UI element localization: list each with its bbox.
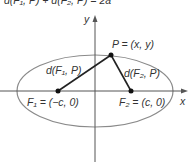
focus1-label: F₁ = (−c, 0) [27,96,79,108]
y-axis-label: y [83,13,90,25]
focus1-point [56,89,61,94]
focus2-label: F₂ = (c, 0) [119,96,165,108]
point-p-label: P = (x, y) [112,38,154,50]
ellipse-diagram: d(F₁, P) + d(F₂, P) = 2a x y P = (x, y) … [0,0,191,162]
x-axis-arrow-icon [181,89,188,94]
x-axis-label: x [179,95,186,107]
distance2-label: d(F₂, P) [124,67,160,79]
distance1-label: d(F₁, P) [46,64,81,76]
equation-text: d(F₁, P) + d(F₂, P) = 2a [4,0,111,6]
point-p [109,53,114,58]
y-axis-arrow-icon [93,15,98,22]
focus2-point [129,89,134,94]
